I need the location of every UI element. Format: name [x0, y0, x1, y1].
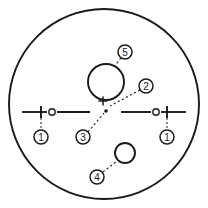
leader-line-callout-5	[113, 58, 121, 68]
callout-1-right[interactable]: 1	[160, 130, 174, 144]
callout-4[interactable]: 4	[90, 170, 104, 184]
callout-1-left[interactable]: 1	[34, 130, 48, 144]
callout-label: 2	[143, 81, 149, 92]
callout-3[interactable]: 3	[76, 130, 90, 144]
callout-5[interactable]: 5	[118, 45, 132, 59]
leader-line-callout-3	[88, 113, 104, 132]
large-bore-circle	[88, 64, 124, 100]
technical-drawing: 1 1 2 3 4 5	[0, 0, 208, 208]
callout-label: 1	[164, 132, 170, 143]
callout-label: 4	[94, 172, 100, 183]
figure-canvas: 1 1 2 3 4 5	[0, 0, 208, 208]
callout-label: 5	[122, 47, 128, 58]
callout-label: 3	[80, 132, 86, 143]
leader-line-callout-4	[103, 161, 117, 172]
left-small-hole	[49, 109, 55, 115]
lower-bore-circle	[115, 143, 135, 163]
callout-2[interactable]: 2	[139, 79, 153, 93]
datum-dot	[104, 109, 108, 113]
callout-label: 1	[38, 132, 44, 143]
outer-boundary-circle	[9, 9, 199, 199]
right-small-hole	[153, 109, 159, 115]
